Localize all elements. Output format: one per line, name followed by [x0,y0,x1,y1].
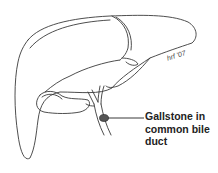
hepatic-duct-left [88,92,94,104]
gallbladder [37,91,90,113]
gallstone [100,115,109,122]
falciform-ligament [112,16,128,60]
gallstone-label: Gallstone in common bile duct [145,110,210,148]
hepatic-duct-right [98,86,100,102]
